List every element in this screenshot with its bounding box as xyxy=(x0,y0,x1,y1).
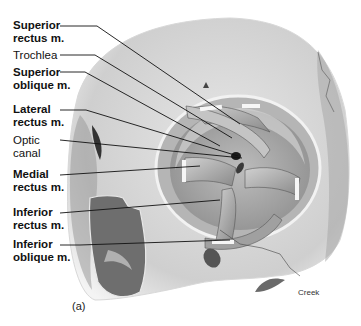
label-line1: Superior xyxy=(13,66,60,78)
panel-label: (a) xyxy=(72,300,85,312)
label-line1: Inferior xyxy=(13,238,53,250)
orbit-muscle-illustration: Superior rectus m. Trochlea Superior obl… xyxy=(0,0,361,326)
artist-credit: Creek xyxy=(298,288,319,297)
label-line1: Medial xyxy=(13,168,49,180)
label-inferior-rectus: Inferior rectus m. xyxy=(13,206,64,232)
label-line2: canal xyxy=(13,147,41,160)
label-line1: Lateral xyxy=(13,103,51,115)
label-line1: Trochlea xyxy=(13,49,57,61)
label-superior-oblique: Superior oblique m. xyxy=(13,66,71,92)
label-medial-rectus: Medial rectus m. xyxy=(13,168,64,194)
label-line1: Inferior xyxy=(13,206,53,218)
label-line2: oblique m. xyxy=(13,79,71,92)
label-superior-rectus: Superior rectus m. xyxy=(13,19,64,45)
label-line2: rectus m. xyxy=(13,116,64,129)
label-line2: rectus m. xyxy=(13,32,64,45)
label-lateral-rectus: Lateral rectus m. xyxy=(13,103,64,129)
label-line2: oblique m. xyxy=(13,251,71,264)
label-line2: rectus m. xyxy=(13,181,64,194)
label-line2: rectus m. xyxy=(13,219,64,232)
label-line1: Optic xyxy=(13,134,40,146)
label-optic-canal: Optic canal xyxy=(13,134,41,160)
label-inferior-oblique: Inferior oblique m. xyxy=(13,238,71,264)
label-trochlea: Trochlea xyxy=(13,49,57,62)
label-line1: Superior xyxy=(13,19,60,31)
